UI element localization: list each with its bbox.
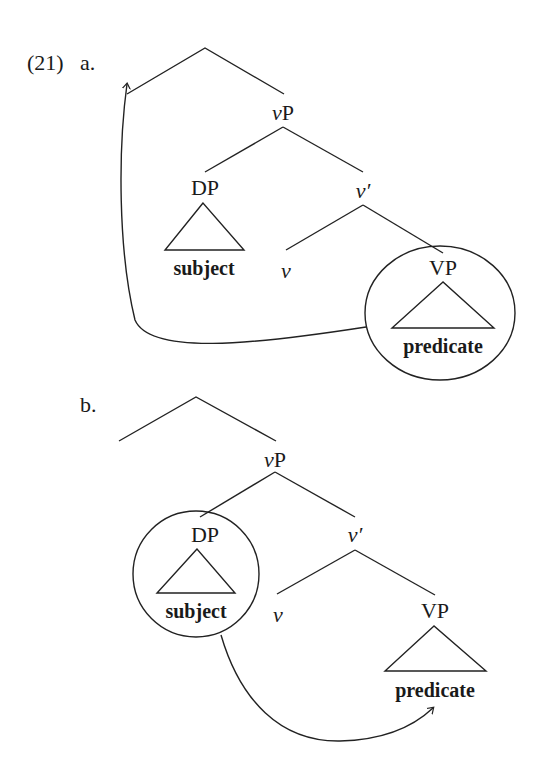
tree-a-subject: subject [173,258,234,278]
example-number: (21) [27,52,64,74]
tree-b-dp-node: DP [191,524,219,546]
tree-a-predicate: predicate [403,336,483,356]
tree-a-v-node: v [281,260,291,282]
tree-b-predicate: predicate [395,680,475,700]
tree-a-dp-node: DP [191,177,219,199]
tree-a-vbar-node: v′ [356,180,371,202]
tree-a-vp-head: VP [429,257,457,279]
movement-arrow-a [121,84,366,343]
tree-b-vbar-node: v′ [348,524,363,546]
tree-b-vp-head: VP [421,600,449,622]
tree-a-label: a. [80,52,95,74]
tree-b-label: b. [80,394,97,416]
tree-a-branches [121,48,515,380]
tree-b-vp-node: vP [264,449,286,471]
tree-diagram-lines [0,0,537,773]
tree-b-subject: subject [165,601,226,621]
tree-a-vp-node: vP [272,102,294,124]
tree-b-v-node: v [273,604,283,626]
